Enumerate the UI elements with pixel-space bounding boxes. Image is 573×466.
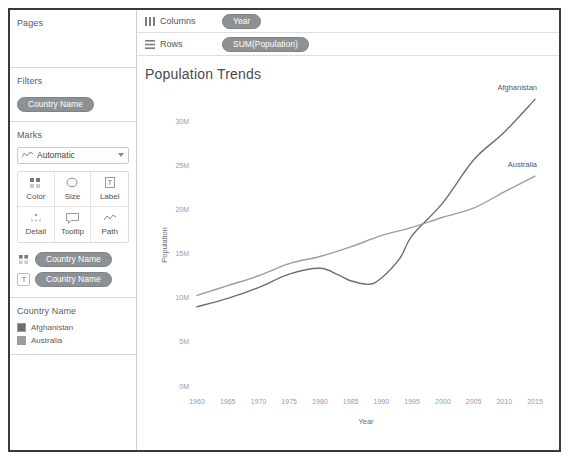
- x-axis-tick-label: 1980: [312, 398, 328, 405]
- marks-chip-country-name-color[interactable]: Country Name: [35, 252, 112, 267]
- series-line-australia[interactable]: [197, 176, 535, 295]
- main-panel: Columns Year Rows SUM(Population) Popula…: [137, 10, 559, 450]
- marks-button-label[interactable]: T Label: [91, 172, 128, 207]
- tooltip-icon: [66, 212, 79, 224]
- legend-label-australia: Australia: [31, 336, 62, 345]
- legend-title: Country Name: [17, 306, 129, 316]
- label-icon: T: [105, 177, 115, 189]
- marks-button-label-label: Label: [100, 192, 120, 201]
- columns-shelf-label: Columns: [156, 16, 214, 26]
- marks-button-color[interactable]: Color: [18, 172, 55, 207]
- line-chart-icon: [22, 151, 33, 159]
- y-axis-tick-label: 25M: [175, 162, 189, 169]
- x-axis-tick-label: 1965: [220, 398, 236, 405]
- x-axis-tick-label: 1995: [404, 398, 420, 405]
- legend-label-afghanistan: Afghanistan: [31, 323, 73, 332]
- visualization-area[interactable]: Population Trends 0M5M10M15M20M25M30MPop…: [137, 56, 559, 450]
- y-axis-tick-label: 20M: [175, 206, 189, 213]
- x-axis-tick-label: 1975: [281, 398, 297, 405]
- size-icon: [66, 177, 78, 189]
- x-axis-tick-label: 2005: [466, 398, 482, 405]
- series-label-afghanistan: Afghanistan: [497, 83, 537, 92]
- series-label-australia: Australia: [508, 160, 538, 169]
- rows-shelf-pill-area[interactable]: SUM(Population): [214, 37, 559, 52]
- marks-button-size-label: Size: [65, 192, 81, 201]
- svg-text:T: T: [21, 276, 26, 283]
- filter-pill-country-name[interactable]: Country Name: [17, 97, 94, 112]
- rows-shelf[interactable]: Rows SUM(Population): [137, 33, 559, 56]
- color-icon: [17, 253, 30, 266]
- columns-pill-year[interactable]: Year: [222, 14, 261, 29]
- x-axis-tick-label: 2010: [496, 398, 512, 405]
- marks-button-size[interactable]: Size: [55, 172, 92, 207]
- columns-icon: [143, 17, 156, 26]
- sidebar-empty-space: [10, 355, 136, 451]
- rows-icon: [143, 40, 156, 49]
- marks-button-path-label: Path: [101, 227, 117, 236]
- line-chart[interactable]: 0M5M10M15M20M25M30MPopulation19601965197…: [137, 56, 559, 450]
- color-icon: [30, 177, 41, 189]
- marks-button-detail[interactable]: Detail: [18, 207, 55, 242]
- y-axis-tick-label: 5M: [179, 338, 189, 345]
- marks-chip-color-row: Country Name: [17, 252, 129, 267]
- legend-swatch-australia: [17, 336, 26, 345]
- x-axis-tick-label: 1970: [251, 398, 267, 405]
- legend-swatch-afghanistan: [17, 323, 26, 332]
- x-axis-tick-label: 1960: [189, 398, 205, 405]
- marks-buttons-grid: Color Size T Label: [17, 171, 129, 243]
- marks-button-path[interactable]: Path: [91, 207, 128, 242]
- columns-shelf-pill-area[interactable]: Year: [214, 14, 559, 29]
- rows-pill-sum-population[interactable]: SUM(Population): [222, 37, 309, 52]
- mark-type-label: Automatic: [37, 150, 118, 160]
- y-axis-tick-label: 15M: [175, 250, 189, 257]
- pages-card: Pages: [10, 10, 136, 68]
- color-legend-card: Country Name Afghanistan Australia: [10, 298, 136, 355]
- marks-card-title: Marks: [17, 130, 129, 140]
- label-icon: T: [17, 273, 30, 286]
- x-axis-title: Year: [358, 417, 374, 426]
- x-axis-tick-label: 1985: [343, 398, 359, 405]
- tableau-workbook-window: Pages Filters Country Name Marks Automat…: [8, 8, 561, 452]
- marks-card: Marks Automatic Color: [10, 122, 136, 298]
- detail-icon: [30, 212, 42, 224]
- marks-button-tooltip[interactable]: Tooltip: [55, 207, 92, 242]
- y-axis-tick-label: 10M: [175, 294, 189, 301]
- chart-canvas: 0M5M10M15M20M25M30MPopulation19601965197…: [137, 56, 559, 450]
- mark-type-dropdown[interactable]: Automatic: [17, 147, 129, 164]
- pages-card-title: Pages: [17, 18, 129, 28]
- x-axis-tick-label: 2000: [435, 398, 451, 405]
- columns-shelf[interactable]: Columns Year: [137, 10, 559, 33]
- marks-chip-country-name-label[interactable]: Country Name: [35, 272, 112, 287]
- rows-shelf-label: Rows: [156, 39, 214, 49]
- marks-chip-label-row: T Country Name: [17, 272, 129, 287]
- path-icon: [104, 212, 116, 224]
- y-axis-tick-label: 0M: [179, 383, 189, 390]
- legend-item-australia[interactable]: Australia: [17, 336, 129, 345]
- y-axis-tick-label: 30M: [175, 118, 189, 125]
- filters-card-title: Filters: [17, 76, 129, 86]
- marks-button-tooltip-label: Tooltip: [61, 227, 84, 236]
- marks-button-detail-label: Detail: [26, 227, 46, 236]
- marks-button-color-label: Color: [26, 192, 45, 201]
- filters-card: Filters Country Name: [10, 68, 136, 122]
- legend-item-afghanistan[interactable]: Afghanistan: [17, 323, 129, 332]
- x-axis-tick-label: 2015: [527, 398, 543, 405]
- left-sidebar: Pages Filters Country Name Marks Automat…: [10, 10, 137, 450]
- y-axis-title: Population: [160, 227, 169, 262]
- svg-text:T: T: [108, 179, 113, 186]
- chevron-down-icon[interactable]: [118, 153, 124, 157]
- x-axis-tick-label: 1990: [374, 398, 390, 405]
